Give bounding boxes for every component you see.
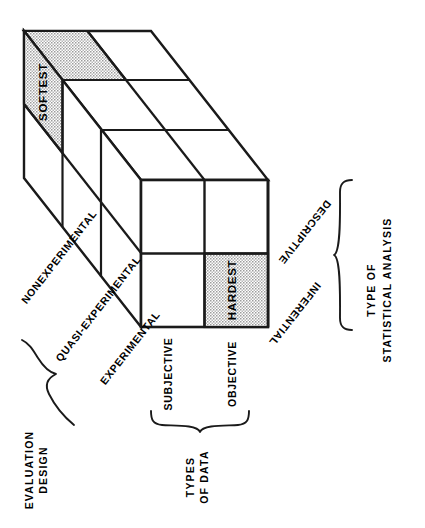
group-label-types-of-data-line1: TYPES [184, 457, 196, 497]
cell-label-softest: SOFTEST [37, 63, 49, 121]
axis-label-objective: OBJECTIVE [226, 341, 238, 407]
types-of-data-brace [151, 411, 249, 432]
axis-label-inferential: INFERENTIAL [267, 280, 324, 348]
group-label-evaluation-design-line1: EVALUATION [23, 431, 35, 510]
group-label-statistical-analysis-line2: STATISTICAL ANALYSIS [381, 217, 393, 362]
cell-label-hardest: HARDEST [226, 260, 238, 321]
group-label-types-of-data-line2: OF DATA [198, 450, 210, 504]
figure-canvas: SOFTEST HARDEST NONEXPERIMENTAL QUASI-EX… [0, 0, 425, 528]
cube-diagram-svg: SOFTEST HARDEST NONEXPERIMENTAL QUASI-EX… [0, 0, 425, 528]
group-label-evaluation-design-line2: DESIGN [37, 446, 49, 493]
axis-label-subjective: SUBJECTIVE [162, 338, 174, 411]
axis-label-descriptive: DESCRIPTIVE [276, 198, 333, 267]
statistical-analysis-brace [334, 180, 352, 330]
group-label-statistical-analysis-line1: TYPE OF [365, 263, 377, 316]
axis-label-experimental: EXPERIMENTAL [97, 308, 162, 386]
